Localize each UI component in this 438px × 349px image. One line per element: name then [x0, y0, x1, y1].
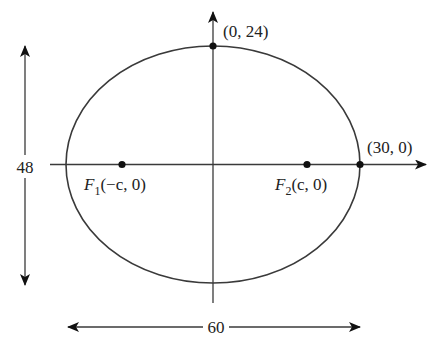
- top-vertex-point: [209, 42, 216, 49]
- width-dimension-label: 60: [208, 318, 225, 337]
- focus1-point: [118, 161, 125, 168]
- focus1-label: F1(−c, 0): [83, 175, 146, 198]
- focus1-label-main: F: [83, 175, 95, 194]
- right-vertex-point: [356, 161, 363, 168]
- height-dimension-label: 48: [17, 158, 34, 177]
- ellipse-diagram: (0, 24) (30, 0) F1(−c, 0) F2(c, 0) 48 60: [0, 0, 438, 349]
- right-vertex-label: (30, 0): [367, 138, 412, 157]
- focus2-label-rest: (c, 0): [291, 175, 327, 194]
- focus2-label-main: F: [274, 175, 286, 194]
- focus1-label-rest: (−c, 0): [100, 175, 145, 194]
- top-vertex-label: (0, 24): [223, 22, 268, 41]
- focus2-label: F2(c, 0): [274, 175, 327, 198]
- focus2-point: [303, 161, 310, 168]
